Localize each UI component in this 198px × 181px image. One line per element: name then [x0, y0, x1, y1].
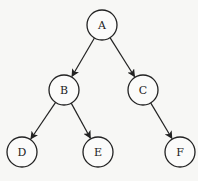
node-label: A	[97, 19, 107, 32]
node-f: F	[165, 137, 195, 167]
edge-b-d	[31, 102, 56, 138]
node-label: C	[139, 84, 147, 97]
node-label: F	[176, 146, 184, 159]
node-d: D	[7, 137, 37, 167]
node-e: E	[83, 137, 113, 167]
node-b: B	[49, 75, 79, 105]
edge-c-f	[151, 103, 172, 138]
node-label: B	[60, 84, 68, 97]
edge-b-e	[71, 103, 90, 138]
tree-diagram: ABCDEF	[0, 0, 198, 181]
node-c: C	[128, 75, 158, 105]
node-a: A	[87, 10, 117, 40]
edge-a-b	[72, 38, 94, 76]
node-label: E	[94, 146, 102, 159]
edge-a-c	[110, 38, 134, 77]
node-label: D	[18, 146, 27, 159]
